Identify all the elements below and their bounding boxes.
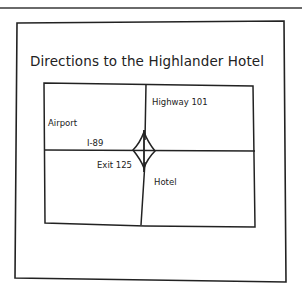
map-box (44, 83, 255, 227)
label-highway: Highway 101 (152, 97, 208, 107)
figure-title: Directions to the Highlander Hotel (30, 53, 264, 69)
label-exit: Exit 125 (97, 160, 132, 170)
road-i89 (45, 150, 255, 151)
map-sketch (0, 0, 302, 296)
label-interstate: I-89 (87, 138, 103, 148)
label-airport: Airport (48, 118, 77, 128)
label-hotel: Hotel (154, 177, 177, 187)
